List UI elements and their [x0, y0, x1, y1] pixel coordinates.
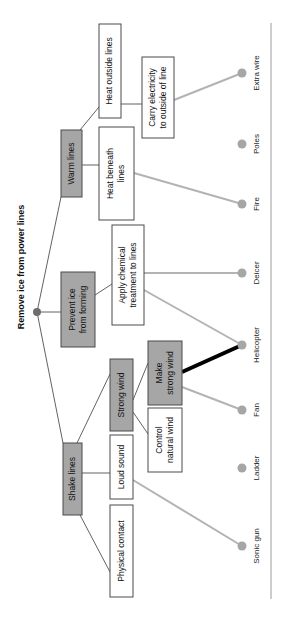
solution-label: Fire: [252, 197, 261, 211]
node-physical-contact: Physical contact: [110, 505, 133, 597]
root-node-dot: [33, 308, 41, 316]
node-label-line2: treatment to lines: [128, 242, 138, 307]
solution-ladder: Ladder: [238, 455, 262, 480]
node-label: Loud sound: [116, 445, 126, 490]
node-label: Strong wind: [116, 372, 126, 417]
node-warm-lines: Warm lines: [61, 130, 82, 197]
node-label-line1: Make: [154, 362, 164, 383]
node-strong-wind: Strong wind: [110, 359, 133, 431]
node-label: Warm lines: [66, 142, 76, 184]
solution-label: Ladder: [252, 455, 261, 480]
solution-deicer: Deicer: [238, 261, 262, 284]
node-label-line2: to outside of line: [158, 66, 168, 128]
solution-dot: [238, 200, 247, 209]
solution-label: Sonic gun: [252, 528, 261, 564]
node-apply-chemical: Apply chemical treatment to lines: [112, 225, 144, 325]
solution-fan: Fan: [238, 403, 262, 417]
solution-dot: [238, 69, 247, 78]
function-tree-diagram: Remove ice from power lines Warm lines P…: [0, 0, 287, 627]
solution-label: Deicer: [252, 261, 261, 284]
node-label-line2: from forming: [78, 285, 88, 333]
solution-extra-wire: Extra wire: [238, 55, 262, 91]
node-label-line1: Prevent ice: [67, 288, 77, 331]
node-make-strong-wind: Make strong wind: [148, 341, 182, 405]
solution-dot: [238, 140, 247, 149]
solution-label: Fan: [252, 403, 261, 417]
solution-dot: [238, 341, 247, 350]
node-label: Heat outside lines: [104, 37, 114, 105]
solution-dot: [238, 406, 247, 415]
node-label-line2: natural wind: [165, 417, 175, 463]
solution-sonic-gun: Sonic gun: [238, 528, 262, 564]
node-label-line1: Carry electricity: [147, 67, 157, 126]
solution-label: Poles: [252, 134, 261, 154]
solution-helicopter: Helicopter: [238, 327, 262, 363]
node-prevent-ice: Prevent ice from forming: [61, 272, 95, 347]
node-label-line1: Heat beneath: [105, 148, 115, 199]
solution-label: Helicopter: [252, 327, 261, 363]
solution-poles: Poles: [238, 134, 262, 154]
node-label-line2: strong wind: [165, 351, 175, 395]
node-carry-electricity: Carry electricity to outside of line: [142, 57, 174, 138]
node-label-line2: lines: [116, 165, 126, 182]
solution-label: Extra wire: [252, 55, 261, 91]
node-label: Shake lines: [67, 457, 77, 501]
node-loud-sound: Loud sound: [110, 435, 133, 499]
solution-dot: [238, 269, 247, 278]
diagram-title: Remove ice from power lines: [16, 205, 26, 330]
node-label-line1: Control: [154, 426, 164, 454]
solution-dot: [238, 542, 247, 551]
node-heat-outside-lines: Heat outside lines: [99, 24, 121, 118]
solution-links: [133, 73, 242, 546]
node-label: Physical contact: [116, 520, 126, 582]
solution-dot: [238, 464, 247, 473]
solution-fire: Fire: [238, 197, 262, 211]
node-shake-lines: Shake lines: [63, 443, 82, 515]
node-label-line1: Apply chemical: [117, 246, 127, 303]
node-control-natural-wind: Control natural wind: [148, 408, 182, 472]
node-heat-beneath-lines: Heat beneath lines: [99, 127, 134, 220]
